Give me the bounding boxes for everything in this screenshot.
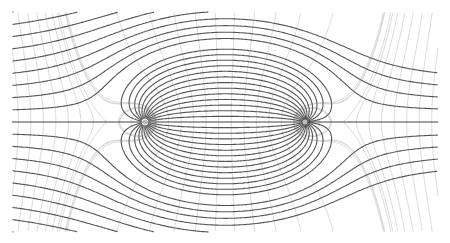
source-point: [143, 120, 148, 125]
streamline: [142, 71, 309, 120]
equipotential-line: [419, 13, 432, 123]
streamline: [142, 124, 309, 173]
rankine-oval-diagram: [0, 0, 450, 243]
streamline: [148, 123, 303, 133]
streamline: [13, 12, 155, 49]
streamline: [148, 123, 302, 128]
streamline: [148, 116, 302, 121]
sink-point: [303, 120, 308, 125]
equipotential-line: [18, 122, 31, 232]
equipotential-line: [18, 13, 31, 123]
streamline: [148, 111, 303, 121]
streamline: [13, 195, 155, 232]
streamline: [13, 19, 438, 73]
streamline: [13, 171, 438, 226]
equipotential-line: [419, 122, 432, 232]
